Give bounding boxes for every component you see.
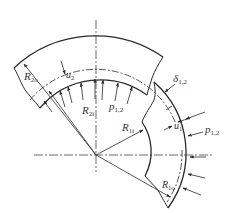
interface-arc-lower [167, 150, 182, 202]
arrow [115, 83, 118, 101]
arc-r1i [142, 122, 151, 176]
arrow [188, 132, 203, 136]
label-r1o: R1o [161, 179, 175, 191]
arc-r2i [40, 80, 147, 108]
label-u2: u2 [66, 69, 74, 81]
arrow [102, 80, 103, 100]
delta-arrow-top [165, 84, 175, 92]
compound-cylinder-diagram: R2o R2i u2 p1,2 δ1,2 R1i u1 p1,2 R1o [0, 0, 226, 213]
arrow [68, 87, 72, 103]
arrow [186, 112, 205, 119]
arrow [183, 188, 201, 195]
radius-line-r2i [49, 91, 96, 155]
label-r2i: R2i [81, 104, 94, 118]
center-lines [34, 20, 212, 172]
label-p12-inner: p1,2 [108, 100, 124, 114]
label-r1i: R1i [121, 121, 134, 135]
labels: R2o R2i u2 p1,2 δ1,2 R1i u1 p1,2 R1o [23, 69, 220, 191]
label-delta12: δ1,2 [173, 72, 187, 86]
arc-r2o [14, 36, 163, 68]
arrow [81, 83, 83, 100]
u2-dimension [61, 61, 65, 74]
label-p12-outer: p1,2 [204, 123, 220, 137]
arrow [127, 87, 132, 104]
radius-lines [24, 64, 170, 197]
arrow [188, 174, 205, 178]
u1-arrow-left [164, 126, 172, 130]
arrow [60, 91, 65, 107]
u2-arrow [61, 61, 65, 74]
label-r2o: R2o [23, 70, 38, 84]
radius-line-r1i [96, 130, 143, 155]
radius-line-r1o [96, 155, 170, 197]
diagram-canvas: R2o R2i u2 p1,2 δ1,2 R1i u1 p1,2 R1o [0, 0, 226, 213]
outer-cylinder [14, 36, 163, 108]
arrow [44, 101, 52, 112]
